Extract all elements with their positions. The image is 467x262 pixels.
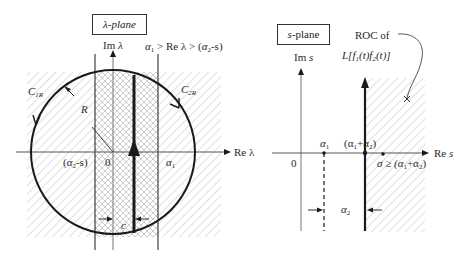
tick-origin-lambda-label: 0 <box>105 157 111 168</box>
im-lambda-label: Im λ <box>103 40 123 51</box>
c1r-label: C1R <box>28 86 43 99</box>
alpha2-left-arrowhead-icon <box>317 208 323 213</box>
sigma-point <box>381 152 385 156</box>
width-c-label: c <box>121 220 126 231</box>
im-lambda-arrowhead-icon <box>110 50 116 57</box>
lambda-crosshatch-region <box>95 72 158 237</box>
roc-label-line2: L[f1(t)f2(t)] <box>342 50 391 63</box>
tick-alpha-sum-label: (α1+α2) <box>344 138 376 151</box>
roc-label-line1: ROC of <box>355 30 390 41</box>
s-plane-panel <box>272 34 429 232</box>
roc-hatched-region <box>365 78 425 232</box>
c2r-label: C2R <box>181 84 196 97</box>
radius-label: R <box>81 104 88 115</box>
gap-alpha2-label: α2 <box>341 204 350 217</box>
im-s-label: Im s <box>294 52 313 63</box>
alpha1-point <box>322 151 326 155</box>
tick-alpha1-lambda-label: α1 <box>166 157 175 170</box>
im-s-arrowhead-icon <box>298 68 304 75</box>
lambda-plane-label-box: λ-plane <box>92 14 147 35</box>
tick-alpha2-minus-s-label: (α2-s) <box>63 157 88 170</box>
tick-alpha1-s-label: α1 <box>320 138 329 151</box>
strip-condition-label: α1 > Re λ > (α2-s) <box>145 41 223 54</box>
re-lambda-label: Re λ <box>234 147 254 158</box>
alpha-sum-point <box>363 151 367 155</box>
lambda-plane-label: λ-plane <box>103 19 136 30</box>
diagram-canvas <box>0 0 467 262</box>
s-plane-label-box: s-plane <box>277 24 330 45</box>
re-s-label: Re s <box>434 148 453 159</box>
re-lambda-arrowhead-icon <box>224 149 231 155</box>
tick-origin-s-label: 0 <box>291 158 297 169</box>
sigma-condition-label: σ ≥ (α1+α2) <box>377 158 426 171</box>
re-s-arrowhead-icon <box>422 150 429 156</box>
